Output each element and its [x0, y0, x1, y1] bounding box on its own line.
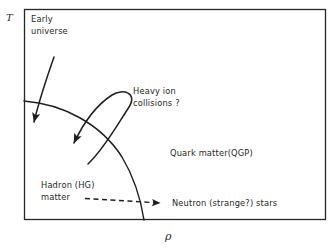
phase-diagram-figure: T ρ Early universe Heavy ion collisions …	[0, 0, 334, 248]
x-axis-label: ρ	[165, 231, 171, 242]
early-universe-arrow	[34, 57, 54, 122]
heavy-ion-arrow	[74, 92, 132, 164]
label-quark-matter: Quark matter(QGP)	[170, 148, 253, 160]
plot-canvas	[0, 0, 334, 248]
y-axis-label: T	[6, 13, 13, 23]
label-heavy-ion-collisions: Heavy ion collisions ?	[133, 86, 180, 109]
neutron-star-dashed-arrow	[85, 199, 160, 204]
label-early-universe: Early universe	[31, 14, 68, 37]
label-neutron-stars: Neutron (strange?) stars	[172, 198, 277, 210]
label-hadron-matter: Hadron (HG) matter	[41, 180, 95, 203]
